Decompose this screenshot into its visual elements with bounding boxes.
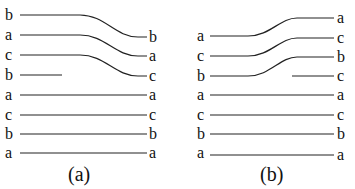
strand-a-shift [20,35,147,56]
label-left: c [197,106,204,123]
panel-caption: (a) [68,163,90,186]
label-right: b [337,125,345,142]
strand-shift-diagram: b a c b a c b a b a c a c b a (a) a c b … [0,0,355,189]
label-right: a [337,9,344,26]
label-right: c [149,106,156,123]
panel-b: a c b a c b a a c b c a c b a (b) [197,9,345,186]
label-right: a [337,146,344,163]
label-right: b [149,28,157,45]
label-left: a [5,26,12,43]
label-right: a [337,86,344,103]
label-left: b [197,125,205,142]
label-right: c [337,29,344,46]
panel-a: b a c b a c b a b a c a c b a (a) [5,6,157,186]
label-left: a [197,86,204,103]
label-left: a [5,86,12,103]
label-left: c [197,47,204,64]
label-right: c [149,67,156,84]
label-right: b [337,48,345,65]
label-left: b [5,6,13,23]
label-left: a [197,144,204,161]
strand-a-shift [210,18,334,36]
strand-b-shift [210,57,334,76]
label-left: b [197,67,205,84]
label-right: a [149,144,156,161]
label-right: c [337,106,344,123]
label-right: a [149,47,156,64]
label-right: b [149,125,157,142]
label-left: c [5,46,12,63]
label-left: b [5,66,13,83]
label-right: a [149,86,156,103]
strand-c-shift [20,55,147,76]
label-left: b [5,125,13,142]
label-left: a [5,144,12,161]
label-right: c [337,67,344,84]
panel-caption: (b) [260,163,283,186]
label-left: a [197,27,204,44]
label-left: c [5,106,12,123]
strand-c-shift [210,38,334,56]
strand-b-shift [20,15,147,37]
